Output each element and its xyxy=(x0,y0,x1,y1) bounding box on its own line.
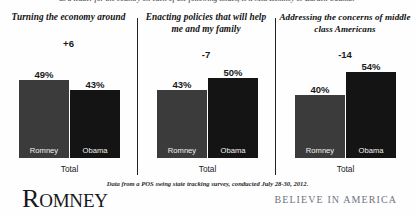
bar-plot: 40% Romney 54% Obama xyxy=(295,62,396,158)
issue-panel-middle-class: Addressing the concerns of middle class … xyxy=(275,12,415,177)
bar-label-obama: Obama xyxy=(346,146,396,155)
slide-footer: Data from a POS swing state tracking sur… xyxy=(0,177,415,215)
bar-group-romney: 49% Romney xyxy=(19,62,69,158)
axis-label-total: Total xyxy=(295,164,396,174)
margin-value: -14 xyxy=(275,49,415,60)
intro-strip: as a leader for the country on each of t… xyxy=(0,0,415,9)
bar-value-obama: 50% xyxy=(208,67,258,78)
margin-value: -7 xyxy=(137,49,275,60)
bar-label-obama: Obama xyxy=(70,146,120,155)
intro-text: as a leader for the country on each of t… xyxy=(0,0,415,3)
bar-group-obama: 50% Obama xyxy=(208,62,258,158)
panel-title: Enacting policies that will help me and … xyxy=(141,12,271,35)
logo-initial: R xyxy=(22,184,39,213)
issue-panel-policies: Enacting policies that will help me and … xyxy=(137,12,275,177)
bar-group-romney: 40% Romney xyxy=(295,62,345,158)
bar-value-romney: 49% xyxy=(19,69,69,80)
bar-group-romney: 43% Romney xyxy=(157,62,207,158)
bar-group-obama: 43% Obama xyxy=(70,62,120,158)
bar-value-obama: 54% xyxy=(346,61,396,72)
logo-wordmark: OMNEY xyxy=(39,190,108,211)
bar-label-obama: Obama xyxy=(208,146,258,155)
bar-obama: Obama xyxy=(208,78,258,158)
axis-label-total: Total xyxy=(157,164,258,174)
bar-label-romney: Romney xyxy=(19,146,69,155)
bar-romney: Romney xyxy=(19,80,69,158)
panel-divider-1 xyxy=(137,18,138,175)
bar-obama: Obama xyxy=(70,90,120,158)
bar-romney: Romney xyxy=(157,90,207,158)
margin-value: +6 xyxy=(0,38,137,49)
bar-value-romney: 43% xyxy=(157,79,207,90)
panel-title: Addressing the concerns of middle class … xyxy=(279,12,411,35)
chart-panels: Turning the economy around +6 49% Romney… xyxy=(0,12,415,177)
bar-label-romney: Romney xyxy=(157,146,207,155)
axis-label-total: Total xyxy=(19,164,120,174)
romney-logo: ROMNEY xyxy=(22,188,108,211)
bar-value-obama: 43% xyxy=(70,79,120,90)
source-note: Data from a POS swing state tracking sur… xyxy=(0,180,415,187)
bar-plot: 43% Romney 50% Obama xyxy=(157,62,258,158)
issue-panel-economy: Turning the economy around +6 49% Romney… xyxy=(0,12,137,177)
bar-romney: Romney xyxy=(295,95,345,158)
bar-value-romney: 40% xyxy=(295,84,345,95)
bar-label-romney: Romney xyxy=(295,146,345,155)
bar-plot: 49% Romney 43% Obama xyxy=(19,62,120,158)
panel-title: Turning the economy around xyxy=(4,12,133,24)
bar-group-obama: 54% Obama xyxy=(346,62,396,158)
campaign-tagline: BELIEVE IN AMERICA xyxy=(274,194,397,205)
slide-canvas: as a leader for the country on each of t… xyxy=(0,0,415,215)
panel-divider-2 xyxy=(275,18,276,175)
bar-obama: Obama xyxy=(346,72,396,158)
